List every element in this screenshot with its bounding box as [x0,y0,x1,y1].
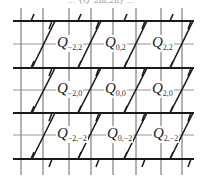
short-diagonal-tick [188,159,191,167]
cell-label: Q2,2 [151,35,174,52]
cell-label-letter: Q [153,125,164,141]
cell-label-subscript: 2,2 [163,43,173,52]
cell-label-subscript: 0,−2 [118,134,133,143]
cell-label-subscript: −2,0 [68,89,83,98]
cell-label: Q−2,−2 [56,126,88,143]
short-diagonal-tick [96,159,99,167]
short-diagonal-tick [124,14,127,21]
cell-label: Q0,0 [104,81,127,98]
cell-label: Q0,−2 [106,126,133,143]
cell-label-letter: Q [57,34,68,50]
short-diagonal-tick [31,14,34,21]
cell-label-subscript: −2,−2 [68,134,87,143]
cell-label: Q−2,2 [56,35,83,52]
cell-label-subscript: 0,0 [116,89,126,98]
cell-label-letter: Q [107,125,118,141]
short-diagonal-tick [142,159,145,167]
long-diagonal-edge [32,21,55,68]
long-diagonal-edge [32,68,55,113]
cell-label: Q−2,0 [56,81,83,98]
cell-label: Q2,−2 [152,126,179,143]
cell-label-subscript: 0,2 [116,43,126,52]
cell-label-letter: Q [105,34,116,50]
short-diagonal-tick [49,159,52,167]
cell-label-subscript: 2,−2 [164,134,179,143]
cell-label-letter: Q [152,34,163,50]
cell-label-letter: Q [57,125,68,141]
cell-label-subscript: 2,0 [163,89,173,98]
cell-label-letter: Q [152,80,163,96]
long-diagonal-edge [124,21,147,68]
long-diagonal-edge [32,113,55,159]
cell-label-subscript: −2,2 [68,43,83,52]
short-diagonal-tick [170,14,173,21]
cell-label: Q0,2 [104,35,127,52]
cell-label-letter: Q [105,80,116,96]
cell-label: Q2,0 [151,81,174,98]
cell-label-letter: Q [57,80,68,96]
short-diagonal-tick [78,14,81,21]
